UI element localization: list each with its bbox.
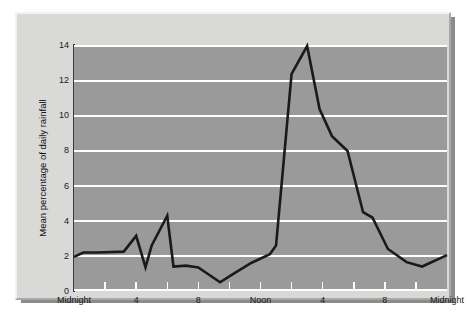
x-tick-label: Noon bbox=[250, 295, 272, 305]
x-tick-label: 8 bbox=[382, 295, 387, 305]
x-tick-label: 8 bbox=[196, 295, 201, 305]
y-axis-tick-labels: 02468101214 bbox=[47, 45, 69, 291]
rainfall-chart-figure: Mean percentage of daily rainfall 024681… bbox=[0, 0, 467, 324]
y-tick-label: 8 bbox=[64, 145, 69, 155]
y-tick-label: 12 bbox=[59, 75, 69, 85]
y-tick-label: 2 bbox=[64, 251, 69, 261]
y-tick-label: 4 bbox=[64, 216, 69, 226]
x-tick-label: 4 bbox=[134, 295, 139, 305]
x-tick-label: Midnight bbox=[57, 295, 91, 305]
y-tick-label: 14 bbox=[59, 40, 69, 50]
figure-card: Mean percentage of daily rainfall 024681… bbox=[15, 12, 451, 300]
x-tick-label: Midnight bbox=[430, 295, 464, 305]
x-axis-tick-labels: Midnight48Noon48Midnight bbox=[74, 295, 447, 311]
y-tick-label: 6 bbox=[64, 181, 69, 191]
x-tick-label: 4 bbox=[320, 295, 325, 305]
rainfall-line-series bbox=[74, 46, 447, 291]
y-tick-label: 10 bbox=[59, 110, 69, 120]
plot-area bbox=[74, 45, 447, 291]
